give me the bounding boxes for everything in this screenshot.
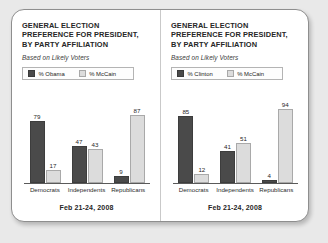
x-tick-democrats: Democrats bbox=[173, 186, 214, 193]
page-title: GENERAL ELECTION PREFERENCE FOR PRESIDEN… bbox=[22, 21, 151, 49]
bar-group-democrats: 79 17 bbox=[24, 89, 66, 183]
chart-footer-date: Feb 21-24, 2008 bbox=[22, 204, 151, 211]
bar-value-label: 79 bbox=[34, 113, 41, 120]
x-tick-democrats: Democrats bbox=[24, 186, 66, 193]
page-title: GENERAL ELECTION PREFERENCE FOR PRESIDEN… bbox=[171, 21, 299, 49]
bar-value-label: 51 bbox=[240, 135, 247, 142]
chart-legend: % Obama % McCain bbox=[22, 67, 134, 80]
legend-label-clinton: % Clinton bbox=[188, 71, 213, 77]
bar-groups: 85 12 41 51 bbox=[173, 89, 298, 183]
bar-group-democrats: 85 12 bbox=[173, 89, 215, 183]
x-axis-tick-labels: Democrats Independents Republicans bbox=[171, 186, 299, 193]
bar-value-label: 4 bbox=[267, 172, 270, 179]
chart-footer-date: Feb 21-24, 2008 bbox=[171, 204, 299, 211]
bar-mccain-republicans: 94 bbox=[278, 109, 293, 183]
legend-item-mccain: % McCain bbox=[227, 70, 264, 77]
x-tick-independents: Independents bbox=[66, 186, 108, 193]
legend-label-obama: % Obama bbox=[39, 71, 65, 77]
panel-subtitle: Based on Likely Voters bbox=[22, 54, 151, 61]
bar-chart-plot: 79 17 47 43 bbox=[22, 89, 151, 184]
x-axis-tick-labels: Democrats Independents Republicans bbox=[22, 186, 151, 193]
chart-panel-obama: GENERAL ELECTION PREFERENCE FOR PRESIDEN… bbox=[12, 10, 160, 221]
chart-panel-clinton: GENERAL ELECTION PREFERENCE FOR PRESIDEN… bbox=[160, 10, 308, 221]
x-tick-republicans: Republicans bbox=[256, 186, 297, 193]
legend-item-clinton: % Clinton bbox=[177, 70, 213, 77]
bar-value-label: 94 bbox=[282, 101, 289, 108]
bar-clinton-independents: 41 bbox=[220, 151, 235, 183]
x-tick-independents: Independents bbox=[214, 186, 255, 193]
page-root: GENERAL ELECTION PREFERENCE FOR PRESIDEN… bbox=[0, 0, 328, 243]
bar-group-republicans: 4 94 bbox=[256, 89, 298, 183]
legend-item-mccain: % McCain bbox=[79, 70, 116, 77]
bar-value-label: 85 bbox=[182, 108, 189, 115]
bar-value-label: 43 bbox=[92, 141, 99, 148]
bar-value-label: 12 bbox=[198, 166, 205, 173]
legend-label-mccain: % McCain bbox=[89, 71, 116, 77]
chart-card: GENERAL ELECTION PREFERENCE FOR PRESIDEN… bbox=[11, 9, 309, 222]
bar-groups: 79 17 47 43 bbox=[24, 89, 150, 183]
bar-obama-independents: 47 bbox=[72, 146, 87, 183]
bar-mccain-democrats: 12 bbox=[194, 174, 209, 183]
chart-legend: % Clinton % McCain bbox=[171, 67, 283, 80]
legend-item-obama: % Obama bbox=[28, 70, 65, 77]
bar-obama-democrats: 79 bbox=[30, 121, 45, 183]
bar-mccain-democrats: 17 bbox=[46, 170, 61, 183]
bar-chart-plot: 85 12 41 51 bbox=[171, 89, 299, 184]
bar-group-independents: 47 43 bbox=[66, 89, 108, 183]
x-axis-line bbox=[24, 183, 150, 184]
legend-swatch-dark-icon bbox=[177, 70, 184, 77]
bar-value-label: 41 bbox=[224, 143, 231, 150]
bar-mccain-independents: 51 bbox=[236, 143, 251, 183]
x-tick-republicans: Republicans bbox=[107, 186, 149, 193]
bar-clinton-democrats: 85 bbox=[178, 116, 193, 183]
bar-value-label: 9 bbox=[119, 168, 122, 175]
bar-mccain-independents: 43 bbox=[88, 149, 103, 183]
bar-group-independents: 41 51 bbox=[215, 89, 257, 183]
bar-obama-republicans: 9 bbox=[114, 176, 129, 183]
panel-subtitle: Based on Likely Voters bbox=[171, 54, 299, 61]
x-axis-line bbox=[173, 183, 298, 184]
legend-swatch-dark-icon bbox=[28, 70, 35, 77]
bar-value-label: 47 bbox=[76, 138, 83, 145]
legend-label-mccain: % McCain bbox=[237, 71, 264, 77]
bar-mccain-republicans: 87 bbox=[130, 115, 145, 183]
legend-swatch-light-icon bbox=[79, 70, 86, 77]
legend-swatch-light-icon bbox=[227, 70, 234, 77]
bar-group-republicans: 9 87 bbox=[108, 89, 150, 183]
bar-value-label: 17 bbox=[50, 162, 57, 169]
bar-value-label: 87 bbox=[134, 107, 141, 114]
